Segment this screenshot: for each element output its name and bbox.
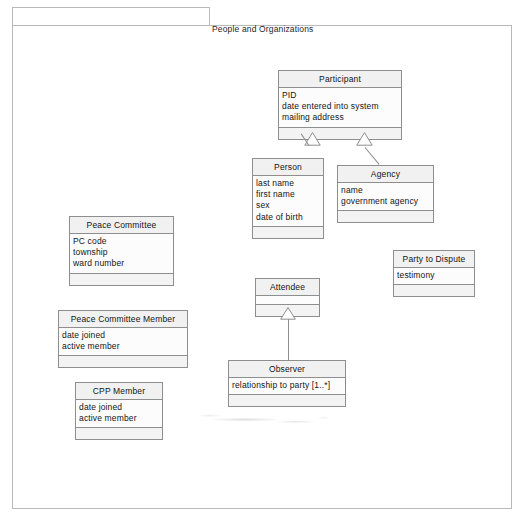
class-name-peace-committee: Peace Committee	[70, 217, 173, 234]
class-name-party-to-dispute: Party to Dispute	[394, 251, 474, 268]
class-operations-cpp-member	[76, 428, 162, 439]
class-attributes-attendee	[256, 296, 319, 305]
attribute: PC code	[73, 236, 173, 247]
attribute: active member	[62, 341, 187, 352]
attribute: township	[73, 247, 173, 258]
class-name-participant: Participant	[279, 71, 401, 88]
generalization-line-observer-to-attendee	[288, 319, 289, 360]
class-operations-person	[253, 227, 323, 238]
class-cpp-member[interactable]: CPP Member date joined active member	[75, 382, 163, 440]
class-operations-agency	[338, 211, 433, 222]
attribute: date entered into system	[282, 101, 401, 112]
class-name-agency: Agency	[338, 166, 433, 183]
class-name-attendee: Attendee	[256, 279, 319, 296]
attribute: relationship to party [1..*]	[232, 380, 345, 391]
class-observer[interactable]: Observer relationship to party [1..*]	[228, 360, 346, 407]
class-name-peace-committee-member: Peace Committee Member	[59, 311, 187, 328]
class-peace-committee[interactable]: Peace Committee PC code township ward nu…	[69, 216, 174, 286]
class-operations-party-to-dispute	[394, 285, 474, 296]
attribute: ward number	[73, 258, 173, 269]
class-attributes-cpp-member: date joined active member	[76, 400, 162, 428]
class-attributes-peace-committee-member: date joined active member	[59, 328, 187, 356]
class-operations-observer	[229, 395, 345, 406]
attribute: active member	[79, 413, 162, 424]
attribute: date joined	[79, 402, 162, 413]
attribute: name	[341, 185, 433, 196]
attribute: sex	[256, 200, 323, 211]
attribute: date joined	[62, 330, 187, 341]
attribute: mailing address	[282, 112, 401, 123]
class-attributes-participant: PID date entered into system mailing add…	[279, 88, 401, 128]
class-agency[interactable]: Agency name government agency	[337, 165, 434, 223]
class-attributes-party-to-dispute: testimony	[394, 268, 474, 285]
class-attributes-agency: name government agency	[338, 183, 433, 211]
class-attributes-observer: relationship to party [1..*]	[229, 378, 345, 395]
package-frame-tab	[12, 7, 210, 26]
package-title: People and Organizations	[212, 24, 313, 34]
class-operations-peace-committee	[70, 274, 173, 285]
class-party-to-dispute[interactable]: Party to Dispute testimony	[393, 250, 475, 297]
diagram-canvas: People and Organizations Participant PID…	[0, 0, 528, 527]
attribute: PID	[282, 90, 401, 101]
class-name-cpp-member: CPP Member	[76, 383, 162, 400]
class-operations-peace-committee-member	[59, 356, 187, 367]
attribute: government agency	[341, 196, 433, 207]
class-operations-participant	[279, 128, 401, 139]
attribute: date of birth	[256, 212, 323, 223]
class-attributes-person: last name first name sex date of birth	[253, 176, 323, 227]
class-peace-committee-member[interactable]: Peace Committee Member date joined activ…	[58, 310, 188, 368]
class-person[interactable]: Person last name first name sex date of …	[252, 158, 324, 239]
attribute: last name	[256, 178, 323, 189]
attribute: first name	[256, 189, 323, 200]
class-attributes-peace-committee: PC code township ward number	[70, 234, 173, 274]
class-participant[interactable]: Participant PID date entered into system…	[278, 70, 402, 140]
class-name-observer: Observer	[229, 361, 345, 378]
class-name-person: Person	[253, 159, 323, 176]
attribute: testimony	[397, 270, 474, 281]
